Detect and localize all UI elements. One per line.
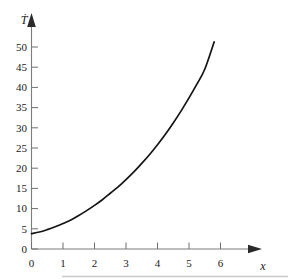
y-tick-label: 25 xyxy=(16,142,28,154)
y-tick-label: 0 xyxy=(22,243,28,255)
x-tick-label: 5 xyxy=(186,257,192,269)
y-tick-label: 45 xyxy=(16,61,28,73)
y-tick-label: 50 xyxy=(16,41,28,53)
y-tick-label: 15 xyxy=(16,182,28,194)
chart-plot-area: 0 5 10 15 20 25 30 35 40 45 50 0 1 2 3 4… xyxy=(0,0,288,279)
y-axis-label: Ṫ xyxy=(21,13,29,27)
y-tick-label: 20 xyxy=(16,162,28,174)
x-axis-arrow-icon xyxy=(248,245,262,254)
y-tick-label: 30 xyxy=(16,122,28,134)
y-axis-tick-labels: 0 5 10 15 20 25 30 35 40 45 50 xyxy=(16,41,28,255)
x-tick-label: 3 xyxy=(123,257,129,269)
x-tick-label: 4 xyxy=(155,257,161,269)
x-tick-label: 2 xyxy=(92,257,98,269)
data-series-curve xyxy=(32,42,215,234)
chart-figure: 0 5 10 15 20 25 30 35 40 45 50 0 1 2 3 4… xyxy=(0,0,288,279)
x-tick-label: 0 xyxy=(29,257,35,269)
y-tick-label: 5 xyxy=(22,223,28,235)
y-tick-label: 10 xyxy=(16,202,28,214)
x-tick-label: 6 xyxy=(218,257,224,269)
y-tick-label: 40 xyxy=(16,81,28,93)
x-axis-tick-labels: 0 1 2 3 4 5 6 xyxy=(29,257,224,269)
x-axis-ticks xyxy=(32,243,221,250)
y-tick-label: 35 xyxy=(16,101,28,113)
y-axis-arrow-icon xyxy=(27,13,36,27)
y-axis-ticks xyxy=(32,47,39,249)
x-tick-label: 1 xyxy=(60,257,66,269)
x-axis-label: x xyxy=(259,259,266,273)
